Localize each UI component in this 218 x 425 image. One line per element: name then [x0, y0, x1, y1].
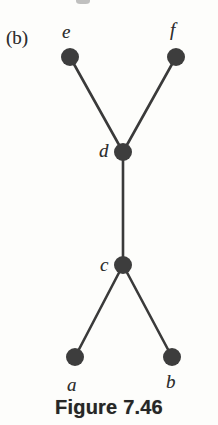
node-a — [66, 348, 84, 366]
node-e — [61, 48, 79, 66]
panel-label: (b) — [6, 27, 28, 49]
node-b — [163, 348, 181, 366]
figure-page: efdcab (b) Figure 7.46 — [0, 0, 218, 425]
node-label-b: b — [166, 372, 176, 391]
node-label-f: f — [170, 20, 175, 39]
tree-diagram — [0, 0, 218, 425]
node-label-e: e — [62, 22, 70, 41]
edge-layer — [70, 57, 176, 357]
node-label-a: a — [67, 375, 77, 394]
node-c — [114, 256, 132, 274]
node-label-c: c — [100, 255, 108, 274]
edge-c-a — [75, 265, 123, 357]
node-label-d: d — [99, 141, 109, 160]
node-d — [114, 143, 132, 161]
edge-f-d — [123, 57, 176, 152]
node-f — [167, 48, 185, 66]
edge-e-d — [70, 57, 123, 152]
edge-c-b — [123, 265, 172, 357]
figure-caption: Figure 7.46 — [0, 396, 218, 419]
